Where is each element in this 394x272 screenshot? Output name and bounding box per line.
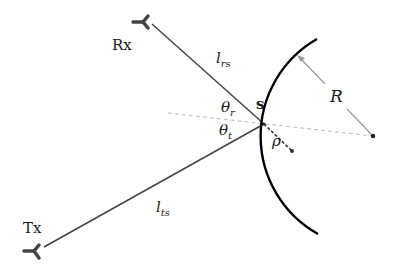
- tx-to-s-line: [44, 124, 264, 247]
- theta-t-sub: t: [228, 130, 232, 141]
- l-ts-sub: ts: [161, 207, 170, 218]
- theta-r-main: θ: [221, 98, 230, 116]
- normal-dashed-line: [168, 113, 373, 136]
- scatter-point: [263, 123, 266, 126]
- radius-label: R: [330, 88, 343, 105]
- radius-arrow-upper: [300, 58, 325, 84]
- tx-label: Tx: [23, 221, 41, 236]
- theta-t-label: θt: [219, 123, 232, 138]
- center-point: [371, 134, 375, 138]
- rx-to-s-line: [152, 24, 264, 124]
- l-rs-label: lrs: [216, 51, 231, 66]
- radius-arrow-lower: [347, 109, 373, 136]
- theta-r-label: θr: [221, 100, 235, 115]
- l-rs-sub: rs: [221, 58, 231, 69]
- rx-label: Rx: [112, 38, 132, 53]
- scattering-diagram: [0, 0, 394, 272]
- rho-label: ρ: [272, 134, 281, 149]
- tx-antenna-icon: [24, 245, 39, 258]
- rho-endpoint: [290, 149, 294, 153]
- s-label: s: [256, 97, 264, 112]
- l-ts-label: lts: [156, 200, 170, 215]
- radius-arrowhead: [297, 55, 305, 62]
- theta-t-main: θ: [219, 121, 228, 139]
- theta-r-sub: r: [230, 107, 235, 118]
- rx-antenna-icon: [133, 16, 148, 28]
